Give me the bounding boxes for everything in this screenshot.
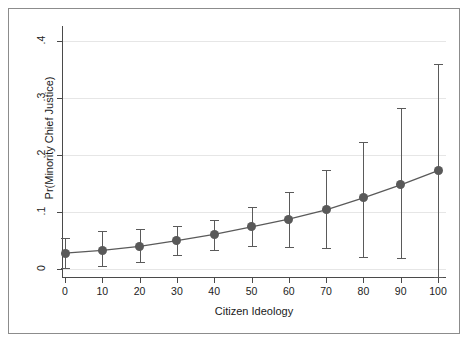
error-bar-cap — [61, 268, 70, 269]
gridline-y — [62, 41, 446, 42]
figure-canvas: 0.1.2.3.4 0102030405060708090100 Citizen… — [0, 0, 468, 342]
error-bar-cap — [359, 142, 368, 143]
error-bar-cap — [285, 192, 294, 193]
error-bar-cap — [322, 248, 331, 249]
x-tick-mark — [326, 278, 327, 283]
x-tick-mark — [363, 278, 364, 283]
x-tick-label: 90 — [386, 285, 416, 297]
error-bar-cap — [434, 277, 443, 278]
error-bar-cap — [61, 238, 70, 239]
x-tick-label: 30 — [162, 285, 192, 297]
error-bar-cap — [397, 108, 406, 109]
y-axis-title: Pr(Minority Chief Justice) — [43, 23, 55, 253]
data-point-marker — [434, 166, 443, 175]
gridline-y — [62, 269, 446, 270]
data-point-marker — [135, 242, 144, 251]
data-point-marker — [210, 230, 219, 239]
gridline-y — [62, 155, 446, 156]
x-tick-mark — [252, 278, 253, 283]
error-bar-cap — [359, 257, 368, 258]
data-point-marker — [98, 246, 107, 255]
x-tick-mark — [177, 278, 178, 283]
data-point-marker — [61, 249, 70, 258]
error-bar-cap — [210, 220, 219, 221]
x-tick-mark — [438, 278, 439, 283]
x-tick-label: 60 — [274, 285, 304, 297]
error-bar-cap — [98, 231, 107, 232]
y-axis-line — [62, 26, 63, 278]
error-bar-cap — [173, 226, 182, 227]
x-tick-label: 10 — [87, 285, 117, 297]
error-bar-cap — [397, 258, 406, 259]
x-axis-title: Citizen Ideology — [62, 305, 446, 317]
x-tick-label: 0 — [50, 285, 80, 297]
x-tick-label: 100 — [423, 285, 453, 297]
error-bar-cap — [285, 247, 294, 248]
x-tick-label: 80 — [348, 285, 378, 297]
x-axis-line — [62, 277, 446, 278]
error-bar-cap — [248, 246, 257, 247]
error-bar-cap — [98, 266, 107, 267]
gridline-y — [62, 212, 446, 213]
x-tick-label: 50 — [237, 285, 267, 297]
error-bar-cap — [434, 64, 443, 65]
gridline-y — [62, 98, 446, 99]
error-bar-cap — [173, 255, 182, 256]
error-bar-cap — [136, 229, 145, 230]
plot-area — [62, 26, 446, 277]
y-tick-label: 0 — [35, 257, 47, 279]
error-bar-cap — [248, 207, 257, 208]
x-tick-label: 70 — [311, 285, 341, 297]
data-point-marker — [322, 205, 331, 214]
x-tick-mark — [289, 278, 290, 283]
x-tick-mark — [401, 278, 402, 283]
data-point-marker — [284, 215, 293, 224]
x-tick-label: 40 — [199, 285, 229, 297]
x-tick-mark — [65, 278, 66, 283]
x-tick-label: 20 — [125, 285, 155, 297]
x-tick-mark — [102, 278, 103, 283]
x-tick-mark — [140, 278, 141, 283]
error-bar-cap — [136, 262, 145, 263]
error-bar-cap — [322, 170, 331, 171]
error-bar-cap — [210, 250, 219, 251]
x-tick-mark — [214, 278, 215, 283]
